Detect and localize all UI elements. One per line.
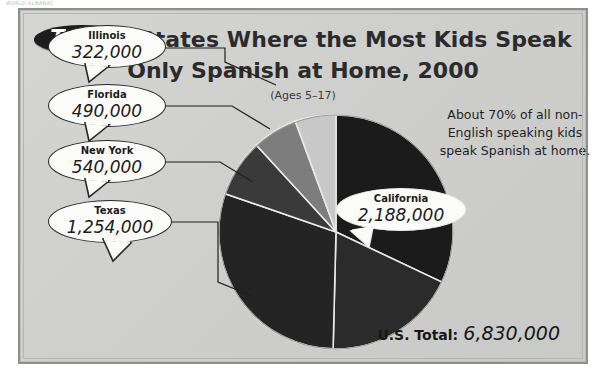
- us-total-label: U.S. Total:: [377, 327, 458, 343]
- callout-state-value: 490,000: [55, 102, 159, 121]
- callout-tail-illinois: [83, 62, 113, 84]
- callout-state-value: 322,000: [55, 43, 159, 62]
- pie-slices: [219, 115, 453, 349]
- callout-florida: Florida 490,000: [48, 84, 166, 127]
- cut-off-header-text: WORLD ALMANAC: [6, 0, 156, 7]
- leader-line-illinois: [154, 48, 276, 85]
- callout-state-value: 540,000: [55, 158, 159, 177]
- callout-newyork: New York 540,000: [48, 140, 166, 183]
- infographic-poster: WORLD ALMANAC Top 5 States Where the Mos…: [0, 0, 596, 372]
- callout-state-name: Florida: [55, 90, 159, 101]
- us-total-footer: U.S. Total: 6,830,000: [377, 322, 560, 344]
- callout-california: California 2,188,000: [336, 188, 466, 231]
- callout-state-name: New York: [55, 146, 159, 157]
- callout-tail-newyork: [83, 177, 113, 199]
- callout-state-name: California: [343, 194, 459, 205]
- callout-tail-texas: [101, 237, 135, 263]
- callout-state-name: Texas: [55, 206, 165, 217]
- leader-line-florida: [154, 106, 270, 129]
- callout-tail-california: [349, 225, 379, 249]
- callout-state-value: 2,188,000: [343, 206, 459, 225]
- callout-state-value: 1,254,000: [55, 218, 165, 237]
- spanish-share-note: About 70% of all non-English speaking ki…: [434, 106, 596, 160]
- poster-frame: Top 5 States Where the Most Kids Speak O…: [18, 8, 588, 364]
- callout-state-name: Illinois: [55, 31, 159, 42]
- callout-texas: Texas 1,254,000: [48, 200, 172, 243]
- us-total-value: 6,830,000: [463, 322, 560, 344]
- callout-illinois: Illinois 322,000: [48, 25, 166, 68]
